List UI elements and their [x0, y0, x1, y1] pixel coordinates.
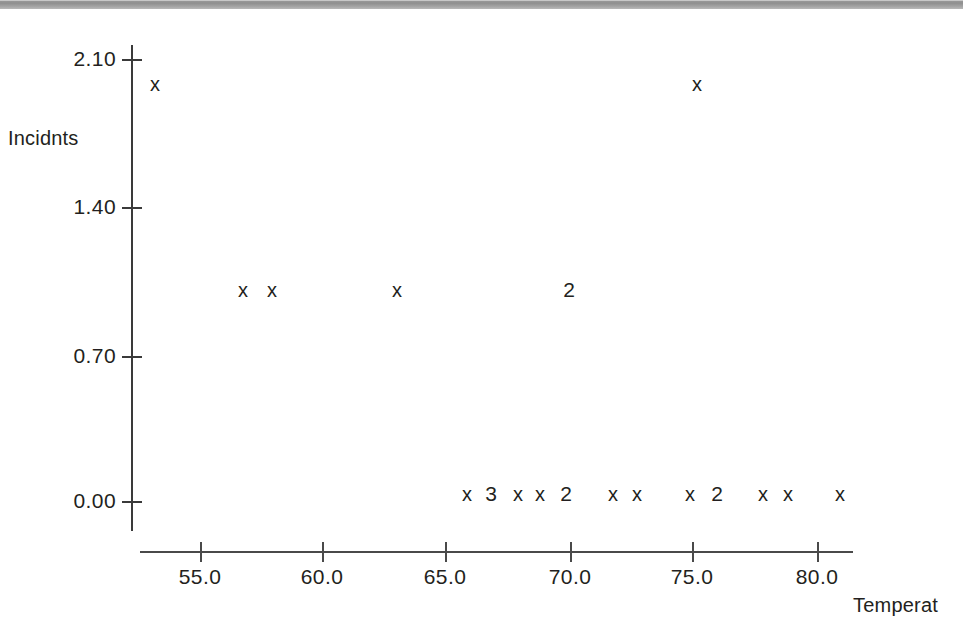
- y-axis-tick-label-wrap: 0.70: [0, 345, 116, 367]
- x-axis-tick: [570, 542, 572, 562]
- data-point-marker: x: [682, 72, 712, 96]
- data-point-marker: x: [140, 72, 170, 96]
- x-axis-tick-label: 70.0: [525, 566, 615, 588]
- data-point-cluster-label: 3: [476, 482, 506, 506]
- y-axis-title: Incidnts: [8, 127, 79, 149]
- x-axis-title: Temperat: [853, 594, 938, 616]
- x-axis-tick: [322, 542, 324, 562]
- data-point-marker: x: [622, 482, 652, 506]
- x-axis-tick-label: 80.0: [772, 566, 862, 588]
- y-axis-tick: [122, 501, 142, 503]
- x-axis-tick-label: 55.0: [155, 566, 245, 588]
- scatter-plot-figure: Incidnts Temperat 2.101.400.700.0055.060…: [0, 0, 963, 628]
- x-axis-tick: [200, 542, 202, 562]
- data-point-cluster-label: 2: [554, 278, 584, 302]
- x-axis-tick: [692, 542, 694, 562]
- data-point-marker: x: [825, 482, 855, 506]
- x-axis-line: [140, 551, 853, 553]
- data-point-marker: x: [773, 482, 803, 506]
- data-point-marker: x: [228, 278, 258, 302]
- data-point-cluster-label: 2: [551, 482, 581, 506]
- y-axis-tick-label: 0.70: [74, 345, 116, 366]
- y-axis-tick: [122, 59, 142, 61]
- window-titlebar-band: [0, 0, 963, 9]
- x-axis-tick-label: 75.0: [647, 566, 737, 588]
- x-axis-tick: [817, 542, 819, 562]
- y-axis-tick-label-wrap: 0.00: [0, 490, 116, 512]
- y-axis-tick: [122, 356, 142, 358]
- y-axis-tick-label-wrap: 1.40: [0, 196, 116, 218]
- y-axis-line: [131, 45, 133, 531]
- data-point-marker: x: [257, 278, 287, 302]
- x-axis-tick-label: 60.0: [277, 566, 367, 588]
- y-axis-tick-label: 2.10: [74, 48, 116, 69]
- y-axis-tick-label: 1.40: [74, 196, 116, 217]
- x-axis-tick: [445, 542, 447, 562]
- data-point-marker: x: [382, 278, 412, 302]
- y-axis-tick-label: 0.00: [74, 490, 116, 511]
- data-point-cluster-label: 2: [702, 482, 732, 506]
- x-axis-tick-label: 65.0: [400, 566, 490, 588]
- y-axis-tick-label-wrap: 2.10: [0, 48, 116, 70]
- data-point-marker: x: [675, 482, 705, 506]
- y-axis-tick: [122, 207, 142, 209]
